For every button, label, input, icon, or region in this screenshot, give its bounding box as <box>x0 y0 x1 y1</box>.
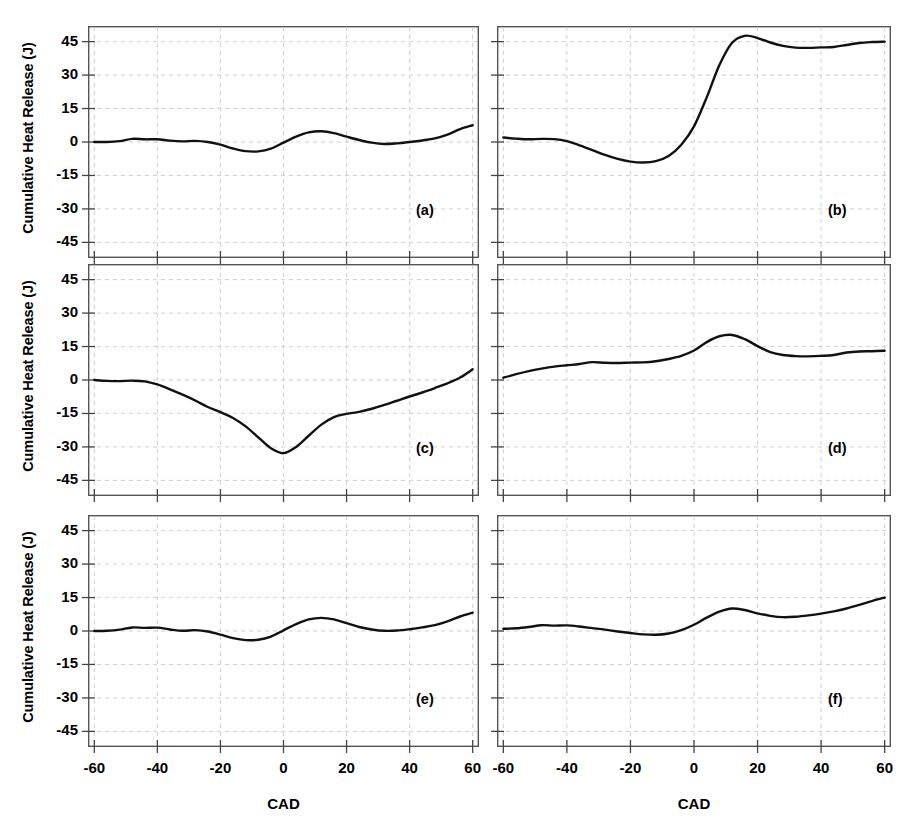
xtick-label-f--60: -60 <box>473 759 533 776</box>
xtick-label-f-40: 40 <box>791 759 851 776</box>
plot-area-e <box>88 515 479 747</box>
xtick-label-e--20: -20 <box>190 759 250 776</box>
x-axis-title-f: CAD <box>497 795 891 812</box>
panel-b <box>497 26 891 258</box>
panel-label-c: (c) <box>416 440 434 456</box>
y-axis-title-a: Cumulative Heat Release (J) <box>20 22 36 254</box>
plot-area-b <box>497 26 891 258</box>
y-axis-title-e: Cumulative Heat Release (J) <box>20 511 36 743</box>
plot-area-d <box>497 264 891 496</box>
panel-label-f: (f) <box>828 691 843 707</box>
panel-e <box>88 515 479 747</box>
panel-f <box>497 515 891 747</box>
plot-area-f <box>497 515 891 747</box>
y-axis-title-c: Cumulative Heat Release (J) <box>20 260 36 492</box>
xtick-label-f--40: -40 <box>537 759 597 776</box>
plot-area-c <box>88 264 479 496</box>
panel-c <box>88 264 479 496</box>
plot-area-a <box>88 26 479 258</box>
xtick-label-e--40: -40 <box>127 759 187 776</box>
panel-label-b: (b) <box>828 202 847 218</box>
panel-d <box>497 264 891 496</box>
panel-a <box>88 26 479 258</box>
xtick-label-f--20: -20 <box>600 759 660 776</box>
panel-label-d: (d) <box>828 440 847 456</box>
figure-canvas: (a)4530150-15-30-45Cumulative Heat Relea… <box>0 0 920 834</box>
panel-label-e: (e) <box>416 691 434 707</box>
panel-label-a: (a) <box>416 202 434 218</box>
xtick-label-e-40: 40 <box>380 759 440 776</box>
xtick-label-f-20: 20 <box>728 759 788 776</box>
xtick-label-f-60: 60 <box>855 759 915 776</box>
xtick-label-e--60: -60 <box>64 759 124 776</box>
x-axis-title-e: CAD <box>88 795 479 812</box>
xtick-label-e-20: 20 <box>317 759 377 776</box>
xtick-label-e-0: 0 <box>254 759 314 776</box>
xtick-label-f-0: 0 <box>664 759 724 776</box>
